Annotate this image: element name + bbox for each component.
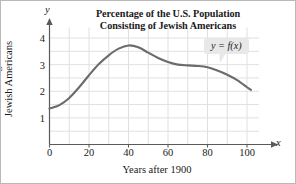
y-axis-variable-label: y — [45, 4, 50, 15]
chart-title-line-2: Consisting of Jewish Americans — [73, 20, 263, 32]
curve-equation-callout: y = f(x) — [204, 38, 249, 54]
chart-figure: Percentage of the U.S. Population Consis… — [0, 0, 296, 184]
x-tick-label: 0 — [47, 147, 52, 158]
x-tick-label: 60 — [163, 147, 174, 158]
chart-title-line-1: Percentage of the U.S. Population — [73, 8, 263, 20]
y-axis-title-line-2: Jewish Americans — [3, 19, 15, 139]
x-tick-label: 100 — [239, 147, 255, 158]
chart-title: Percentage of the U.S. Population Consis… — [73, 8, 263, 32]
x-tick-label: 40 — [123, 147, 134, 158]
x-tick-label: 20 — [84, 147, 95, 158]
y-tick-label: 3 — [40, 59, 45, 70]
x-tick-label: 80 — [202, 147, 213, 158]
y-tick-label: 2 — [40, 86, 45, 97]
y-tick-label: 1 — [40, 112, 45, 123]
y-axis-arrow-icon — [46, 18, 52, 25]
y-tick-label: 4 — [40, 33, 45, 44]
y-axis-title: Percentage of Jewish Americans — [0, 19, 14, 139]
x-axis-variable-label: x — [276, 137, 281, 148]
x-axis-title: Years after 1900 — [49, 164, 265, 175]
